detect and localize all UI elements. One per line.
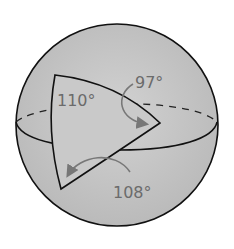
angle-label-108: 108° (113, 183, 152, 202)
angle-label-97: 97° (135, 73, 163, 92)
diagram-canvas: 110° 97° 108° (0, 0, 234, 249)
angle-label-110: 110° (57, 91, 96, 110)
spherical-triangle-diagram: 110° 97° 108° (0, 0, 234, 249)
